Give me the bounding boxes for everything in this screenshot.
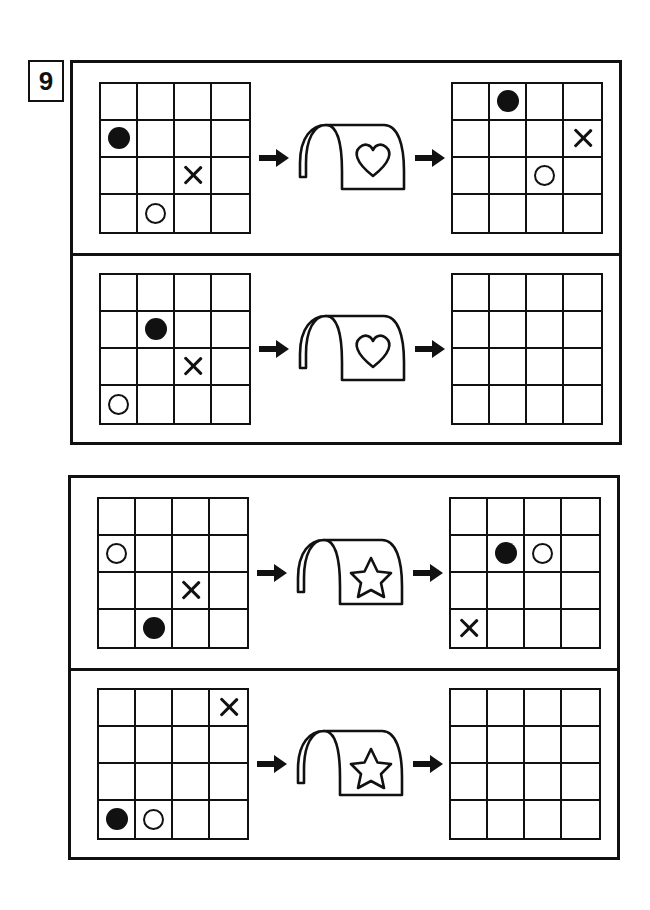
grid-cell[interactable] [490,312,527,349]
grid-cell[interactable] [562,764,599,801]
grid-cell[interactable] [451,801,488,838]
grid-cell [210,499,247,536]
output-grid[interactable] [451,273,603,425]
grid-cell[interactable] [527,195,564,232]
grid-cell[interactable] [562,801,599,838]
grid-cell[interactable] [564,195,601,232]
grid-cell[interactable] [527,386,564,423]
open-circle-token [534,165,555,186]
open-circle-token [145,203,166,224]
grid-cell [210,536,247,573]
input-grid [97,497,249,649]
grid-cell [212,195,249,232]
grid-cell [212,312,249,349]
grid-cell[interactable] [453,275,490,312]
grid-cell[interactable] [490,349,527,386]
cross-token [181,163,205,187]
grid-cell[interactable] [453,312,490,349]
grid-cell[interactable] [525,764,562,801]
grid-cell[interactable] [453,195,490,232]
grid-cell[interactable] [490,158,527,195]
arrow-right-out-of-machine [413,753,443,775]
grid-cell[interactable] [525,690,562,727]
grid-cell [210,690,247,727]
grid-cell[interactable] [488,801,525,838]
grid-cell[interactable] [564,275,601,312]
grid-cell [138,84,175,121]
grid-cell[interactable] [527,121,564,158]
grid-cell[interactable] [453,121,490,158]
output-grid[interactable] [449,688,601,840]
grid-cell[interactable] [490,121,527,158]
grid-cell[interactable] [525,727,562,764]
output-grid[interactable] [451,82,603,234]
grid-cell [210,764,247,801]
grid-cell[interactable] [562,573,599,610]
grid-cell[interactable] [564,158,601,195]
grid-cell [173,690,210,727]
grid-cell [99,573,136,610]
grid-cell [173,727,210,764]
grid-cell[interactable] [525,610,562,647]
grid-cell [136,536,173,573]
grid-cell [136,727,173,764]
grid-cell[interactable] [451,499,488,536]
grid-cell[interactable] [562,499,599,536]
grid-cell [99,764,136,801]
grid-cell [101,84,138,121]
grid-cell[interactable] [562,727,599,764]
grid-cell [173,764,210,801]
grid-cell[interactable] [527,84,564,121]
grid-cell[interactable] [453,84,490,121]
arrow-right-into-machine [257,753,287,775]
output-grid[interactable] [449,497,601,649]
grid-cell[interactable] [488,610,525,647]
grid-cell[interactable] [525,499,562,536]
grid-cell[interactable] [564,386,601,423]
grid-cell[interactable] [453,158,490,195]
grid-cell [175,312,212,349]
grid-cell[interactable] [453,386,490,423]
grid-cell[interactable] [562,690,599,727]
grid-cell[interactable] [488,536,525,573]
grid-cell[interactable] [488,573,525,610]
filled-circle-token [497,90,519,112]
grid-cell[interactable] [451,764,488,801]
grid-cell [136,764,173,801]
grid-cell[interactable] [488,499,525,536]
grid-cell[interactable] [453,349,490,386]
grid-cell [138,195,175,232]
grid-cell[interactable] [527,312,564,349]
grid-cell[interactable] [488,764,525,801]
grid-cell[interactable] [488,727,525,764]
grid-cell[interactable] [564,84,601,121]
puzzle-row [71,668,617,858]
grid-cell [99,610,136,647]
grid-cell[interactable] [527,349,564,386]
grid-cell[interactable] [562,536,599,573]
grid-cell [173,573,210,610]
grid-cell [173,499,210,536]
grid-cell[interactable] [451,610,488,647]
grid-cell [175,386,212,423]
grid-cell[interactable] [527,275,564,312]
grid-cell[interactable] [490,275,527,312]
input-grid [99,82,251,234]
grid-cell[interactable] [527,158,564,195]
grid-cell[interactable] [451,727,488,764]
grid-cell[interactable] [490,386,527,423]
grid-cell[interactable] [562,610,599,647]
grid-cell[interactable] [564,349,601,386]
grid-cell[interactable] [525,801,562,838]
grid-cell[interactable] [490,195,527,232]
grid-cell[interactable] [564,312,601,349]
grid-cell[interactable] [451,573,488,610]
puzzle-page: 9 [0,0,650,910]
grid-cell[interactable] [451,690,488,727]
grid-cell[interactable] [490,84,527,121]
grid-cell[interactable] [564,121,601,158]
grid-cell[interactable] [525,573,562,610]
grid-cell[interactable] [525,536,562,573]
grid-cell[interactable] [488,690,525,727]
grid-cell[interactable] [451,536,488,573]
